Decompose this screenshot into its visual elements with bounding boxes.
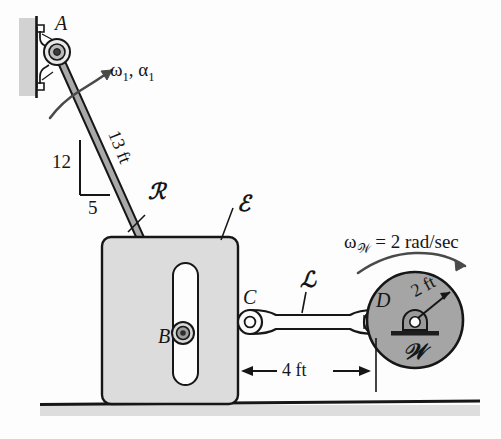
mechanism-figure: A ω1, α1 12 5 13 ft ℛ ℰ B C ℒ D 2 ft 𝒲 ω…: [0, 0, 501, 439]
ground-band: [40, 405, 480, 416]
pin-c-hole: [245, 317, 256, 328]
pivot-a-group: [44, 39, 70, 65]
dim-4ft-arrow-right: [359, 366, 371, 376]
alpha-subscript: 1: [148, 70, 154, 84]
label-separator: ,: [129, 59, 139, 80]
alpha-glyph: α: [138, 59, 148, 80]
wheel-rotation-arc: [358, 253, 465, 273]
mechanism-drawing: [0, 0, 501, 439]
link-l-body: [250, 310, 376, 334]
link-label-leader: [302, 292, 306, 313]
omega-w-subscript: 𝒲: [357, 242, 371, 256]
block-e-body: [102, 237, 238, 404]
label-rod: ℛ: [148, 180, 166, 202]
label-pin-c: C: [243, 287, 256, 307]
label-rod-rise: 12: [52, 152, 71, 171]
bracket-bolt-bottom: [37, 83, 44, 90]
label-link: ℒ: [300, 268, 316, 290]
pin-b-group: [172, 322, 194, 344]
omega-w-glyph: ω: [344, 231, 357, 252]
label-rod-angular: ω1, α1: [110, 60, 155, 83]
bracket-bolt-top: [37, 25, 44, 32]
block-label-leader: [221, 208, 233, 240]
label-pin-b: B: [158, 326, 170, 346]
label-wheel: 𝒲: [403, 340, 426, 362]
link-l-group: [238, 310, 388, 334]
label-pin-d: D: [376, 290, 390, 310]
dim-4ft-arrow-left: [241, 366, 253, 376]
wheel-hub-base: [391, 331, 439, 336]
label-pivot-a: A: [55, 13, 67, 33]
dimension-4ft-group: [241, 338, 376, 392]
label-rod-run: 5: [88, 198, 98, 217]
omega-w-value: = 2 rad/sec: [371, 231, 459, 252]
label-block: ℰ: [237, 192, 250, 214]
omega-glyph: ω: [110, 59, 123, 80]
wheel-rotation-arrow: [358, 253, 465, 273]
pivot-a-hole: [54, 49, 61, 56]
pin-b-hole: [180, 330, 186, 336]
block-e-group: [102, 237, 238, 404]
label-dim-4ft: 4 ft: [282, 361, 307, 379]
wall-band: [19, 18, 36, 96]
label-wheel-angular: ω𝒲 = 2 rad/sec: [344, 232, 459, 255]
